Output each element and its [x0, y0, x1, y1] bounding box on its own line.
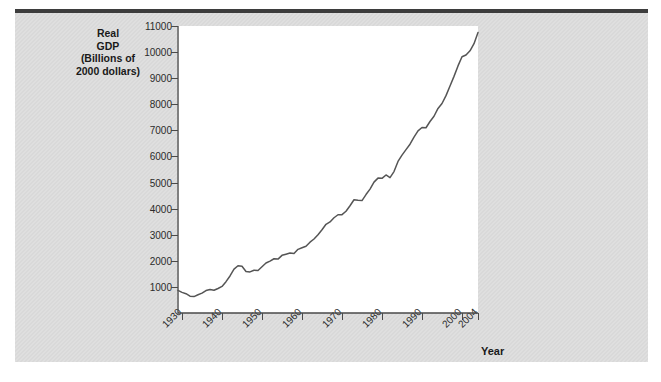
- chart-canvas: [0, 0, 661, 382]
- figure-container: Real GDP (Billions of 2000 dollars) 1000…: [0, 0, 661, 382]
- gdp-data-line: [178, 33, 478, 297]
- axis-lines: [178, 26, 478, 313]
- gdp-line-chart: [0, 0, 661, 382]
